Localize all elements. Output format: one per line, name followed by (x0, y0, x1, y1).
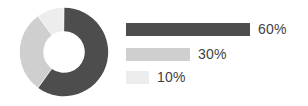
legend-item[interactable]: 10% (126, 67, 186, 87)
donut-chart-graphic (17, 5, 111, 99)
legend-item[interactable]: 30% (126, 44, 227, 64)
legend-swatch-bar (126, 23, 250, 36)
donut-segments (20, 8, 108, 96)
legend-item-label: 10% (157, 70, 186, 84)
legend-swatch-bar (126, 48, 190, 61)
legend-item[interactable]: 60% (126, 19, 287, 39)
chart-legend: 60% 30% 10% (126, 17, 308, 93)
legend-item-label: 30% (198, 47, 227, 61)
donut-chart-figure: 60% 30% 10% (0, 0, 308, 106)
legend-item-label: 60% (258, 22, 287, 36)
legend-swatch-bar (126, 71, 149, 84)
